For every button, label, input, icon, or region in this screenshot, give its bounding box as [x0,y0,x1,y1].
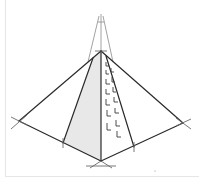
stray-dot [154,170,155,171]
brick-marks [106,62,121,137]
pyramid-outline [19,51,183,161]
pyramid-sketch [0,0,201,185]
